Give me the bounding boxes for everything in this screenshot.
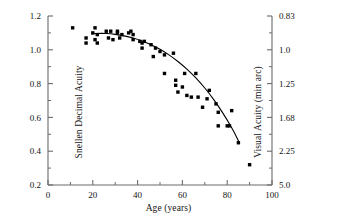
data-point [158,50,161,53]
data-point [174,84,177,87]
y-tick-label-left: 1.2 [30,11,41,21]
data-point [201,106,204,109]
x-tick-label: 20 [88,190,98,200]
data-point [185,94,188,97]
x-tick-label: 0 [46,190,51,200]
data-point [131,33,134,36]
data-point [163,53,166,56]
data-point [96,41,99,44]
y-axis-left-title: Snellen Decimal Acuity [74,37,84,187]
y-axis-right-title: Visual Acuity (min arc) [253,37,263,187]
data-point [116,30,119,33]
y-tick-label-right: 2.25 [279,146,295,156]
data-point [183,72,186,75]
data-point [248,163,251,166]
data-point [111,38,114,41]
data-point [172,51,175,54]
data-point [91,31,94,34]
data-point [129,30,132,33]
data-point [228,124,231,127]
y-tick-label-right: 0.83 [279,11,295,21]
y-tick-label-right: 1.0 [279,45,291,55]
data-point [105,30,108,33]
data-point [196,95,199,98]
data-point [190,95,193,98]
x-axis-title: Age (years) [0,203,337,213]
x-tick-label: 60 [178,190,188,200]
y-tick-label-right: 1.68 [279,113,295,123]
fit-curve [92,33,239,140]
data-point [149,43,152,46]
y-tick-label-right: 1.25 [279,79,295,89]
scatter-plot: 0204060801000.20.40.60.81.01.25.02.251.6… [0,0,337,223]
data-point [181,85,184,88]
y-tick-label-left: 0.2 [30,180,41,190]
y-tick-label-left: 0.6 [30,113,42,123]
x-tick-label: 100 [265,190,279,200]
data-point [93,38,96,41]
data-point [140,46,143,49]
data-point [205,97,208,100]
fit-curve-group [92,33,239,140]
data-point [237,141,240,144]
data-point [96,33,99,36]
data-point [214,102,217,105]
data-point [131,38,134,41]
data-point [163,72,166,75]
figure-container: 0204060801000.20.40.60.81.01.25.02.251.6… [0,0,337,223]
data-point [154,46,157,49]
data-points-group [71,26,251,166]
data-point [93,26,96,29]
data-point [208,89,211,92]
data-point [120,33,123,36]
y-tick-label-left: 0.4 [30,146,42,156]
data-point [230,109,233,112]
y-tick-label-left: 1.0 [30,45,42,55]
data-point [107,36,110,39]
data-point [217,124,220,127]
data-point [176,90,179,93]
data-point [84,41,87,44]
data-point [194,72,197,75]
y-tick-label-right: 5.0 [279,180,291,190]
x-tick-label: 80 [223,190,233,200]
data-point [143,40,146,43]
data-point [174,79,177,82]
data-point [118,36,121,39]
data-point [217,111,220,114]
data-point [152,55,155,58]
data-point [109,30,112,33]
y-tick-label-left: 0.8 [30,79,42,89]
data-point [84,36,87,39]
data-point [71,26,74,29]
x-tick-label: 40 [133,190,143,200]
